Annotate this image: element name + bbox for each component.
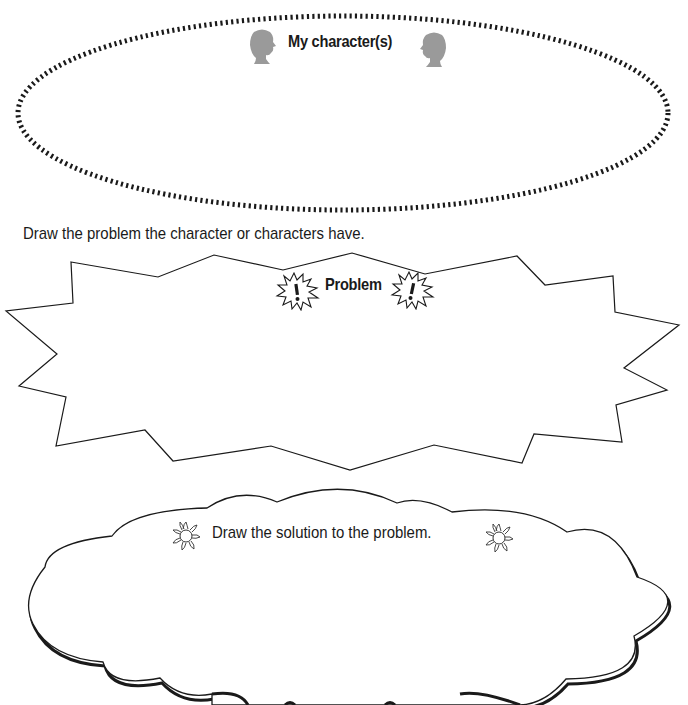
head-silhouette-left-icon (418, 30, 448, 70)
exclamation-burst-icon (274, 271, 322, 311)
solution-title: Draw the solution to the problem. (212, 523, 432, 543)
sun-icon (171, 520, 201, 552)
sun-icon (484, 522, 514, 554)
exclamation-burst-icon (389, 270, 437, 310)
problem-title: Problem (325, 275, 382, 295)
characters-drawing-area[interactable] (40, 70, 650, 200)
characters-title: My character(s) (288, 32, 392, 52)
problem-instruction: Draw the problem the character or charac… (23, 224, 365, 244)
head-silhouette-right-icon (248, 28, 278, 66)
solution-drawing-area[interactable] (60, 565, 620, 685)
problem-drawing-area[interactable] (70, 310, 615, 435)
